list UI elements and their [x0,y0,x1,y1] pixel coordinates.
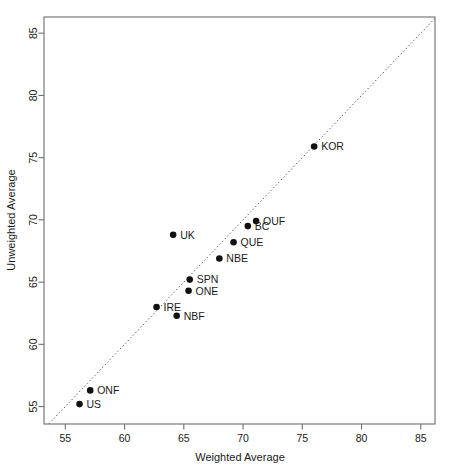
data-point-label: ONE [196,285,219,297]
data-point-labels: USONFIRENBFUKONESPNNBEQUEBCOUFKOR [87,140,345,410]
data-point [76,401,83,408]
identity-reference-line [49,18,435,424]
y-tick-label: 85 [27,27,39,39]
y-tick-label: 70 [27,214,39,226]
data-point [311,143,318,150]
data-point-label: QUE [241,236,264,248]
x-tick-label: 70 [237,432,249,444]
data-point [87,387,94,394]
x-axis-tick-labels: 55606570758085 [59,432,426,444]
plot-frame [44,17,435,424]
data-point-label: IRE [164,301,182,313]
data-point [173,312,180,319]
plot-canvas: 55606570758085 55606570758085 USONFIRENB… [0,0,461,469]
frame-rect [44,17,435,424]
x-tick-label: 55 [59,432,71,444]
x-tick-label: 65 [178,432,190,444]
data-point-label: SPN [197,273,219,285]
data-point [185,288,192,295]
data-point [216,255,223,262]
x-tick-label: 85 [415,432,427,444]
data-point-label: NBE [226,252,248,264]
y-axis-title: Unweighted Average [5,169,17,270]
y-tick-label: 55 [27,401,39,413]
y-tick-label: 60 [27,338,39,350]
y-tick-label: 80 [27,89,39,101]
x-tick-label: 75 [296,432,308,444]
reference-line [49,18,435,424]
data-point-label: NBF [184,310,205,322]
data-point [153,304,160,311]
y-axis-ticks [39,33,45,406]
x-tick-label: 80 [356,432,368,444]
x-axis-ticks [65,424,420,430]
x-axis-title: Weighted Average [195,451,285,463]
y-tick-label: 65 [27,276,39,288]
scatter-plot-figure: 55606570758085 55606570758085 USONFIRENB… [0,0,461,469]
data-point [244,223,251,230]
y-tick-label: 75 [27,152,39,164]
data-point-label: US [87,398,102,410]
data-point [230,239,237,246]
x-tick-label: 60 [119,432,131,444]
data-point-label: ONF [97,384,119,396]
data-point-label: UK [180,229,195,241]
data-point [186,276,193,283]
data-point-label: KOR [321,140,344,152]
data-point [170,232,177,239]
y-axis-tick-labels: 55606570758085 [27,27,39,412]
data-point-label: OUF [263,215,285,227]
